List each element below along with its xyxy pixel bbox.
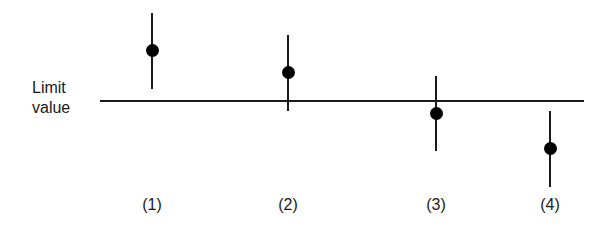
limit-value-line [100,100,584,102]
case-label: (2) [268,196,308,214]
case-label: (1) [132,196,172,214]
data-point-marker [146,44,159,57]
case-label: (4) [530,196,570,214]
data-point-marker [544,142,557,155]
data-point-marker [430,107,443,120]
data-point-marker [282,66,295,79]
limit-label-line1: Limit [32,78,70,98]
limit-value-label: Limit value [32,78,70,118]
case-label: (3) [416,196,456,214]
limit-label-line2: value [32,98,70,118]
